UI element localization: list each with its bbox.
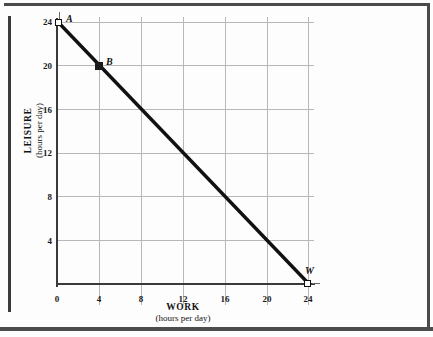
page-frame-bottom: [0, 327, 433, 331]
gridline-vertical: [225, 17, 226, 305]
y-tick-label: 20: [43, 62, 52, 71]
point-a-label: A: [66, 14, 73, 24]
y-axis-title-sub: (hours per day): [34, 36, 44, 226]
gridline-horizontal: [57, 196, 314, 197]
gridline-vertical: [308, 17, 309, 305]
point-w-label: W: [305, 266, 314, 276]
x-tick-16: 16: [215, 288, 235, 298]
gridline-horizontal: [57, 109, 314, 110]
y-axis-title: LEISURE (hours per day): [23, 36, 44, 226]
gridline-vertical: [183, 17, 184, 305]
page-frame-right: [427, 3, 430, 329]
x-axis-line: [57, 283, 315, 285]
x-tick-12: 12: [173, 288, 193, 298]
y-tick-label: 4: [48, 237, 53, 246]
y-axis-line: [56, 18, 58, 287]
point-b-label: B: [106, 57, 113, 67]
x-axis-title-sub: (hours per day): [57, 313, 309, 323]
x-tick-0: 0: [47, 288, 67, 298]
gridline-horizontal: [57, 240, 314, 241]
point-b-marker: [95, 62, 103, 70]
gridline-vertical: [267, 17, 268, 305]
x-tick-24: 24: [298, 288, 318, 298]
y-tick-4: 4: [34, 237, 52, 246]
gridline-vertical: [141, 17, 142, 305]
point-a-marker: [55, 19, 62, 26]
y-tick-24: 24: [34, 18, 52, 27]
y-tick-label: 24: [43, 18, 52, 27]
x-axis-title: WORK (hours per day): [57, 302, 309, 323]
y-tick-label: 16: [43, 106, 52, 115]
page-frame-left-bar: [8, 16, 11, 312]
x-tick-20: 20: [257, 288, 277, 298]
x-tick-4: 4: [89, 288, 109, 298]
x-axis-title-main: WORK: [57, 302, 309, 312]
gridline-vertical: [99, 17, 100, 305]
y-tick-label: 12: [43, 149, 52, 158]
point-w-marker: [304, 280, 311, 287]
figure-container: 24 20 16 12 8 4 0 4 8 12 16 20 24 A B: [0, 0, 433, 337]
gridline-horizontal: [57, 153, 314, 154]
y-axis-title-main: LEISURE: [23, 36, 33, 226]
tick-stub-right-of-point-w: [312, 283, 320, 284]
page-frame-top: [4, 3, 430, 6]
gridline-horizontal: [57, 22, 314, 23]
y-tick-label: 8: [48, 193, 53, 202]
tick-stub-above-point-a: [59, 12, 60, 19]
x-tick-8: 8: [131, 288, 151, 298]
